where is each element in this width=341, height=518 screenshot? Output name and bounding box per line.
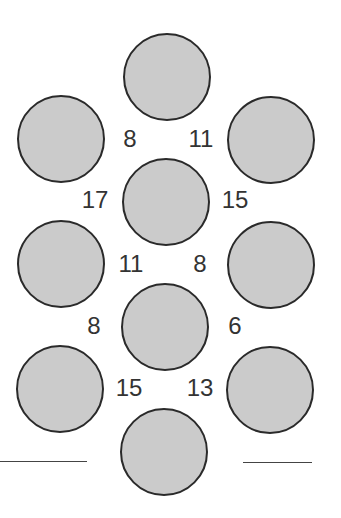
number-label: 6 [228,314,241,338]
number-label: 8 [87,314,100,338]
circle-middle-left [17,220,105,308]
circle-center-upper [122,158,210,246]
number-label: 15 [222,188,249,212]
answer-blank-right[interactable] [243,462,312,463]
number-label: 8 [193,252,206,276]
circle-lower-right [226,346,314,434]
puzzle-diagram: 8 11 17 15 11 8 8 6 15 13 [0,0,341,518]
circle-lower-left [16,345,104,433]
circle-bottom [120,408,208,496]
number-label: 8 [123,127,136,151]
number-label: 11 [189,127,214,151]
circle-top [123,33,211,121]
answer-blank-left[interactable] [0,461,87,462]
circle-upper-left [17,95,105,183]
number-label: 15 [116,376,143,400]
circle-middle-right [227,221,315,309]
circle-upper-right [227,96,315,184]
number-label: 11 [119,252,144,276]
number-label: 17 [82,188,109,212]
circle-center-lower [121,283,209,371]
number-label: 13 [187,376,214,400]
